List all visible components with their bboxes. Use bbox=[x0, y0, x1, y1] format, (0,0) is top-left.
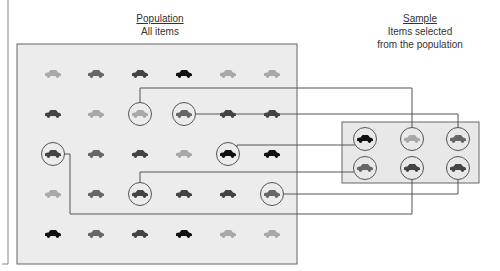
sample-box bbox=[342, 122, 479, 183]
sampling-diagram bbox=[0, 0, 500, 271]
left-border-line bbox=[2, 0, 8, 264]
